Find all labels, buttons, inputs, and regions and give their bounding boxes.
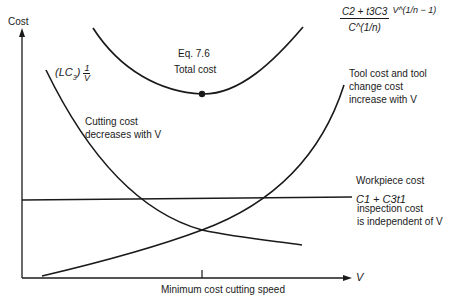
y-axis-label: Cost xyxy=(8,16,29,28)
total-cost-formula: C2 + t3C3 C^(1/n) V^(1/n − 1) xyxy=(340,6,436,34)
total-cost-curve xyxy=(93,27,303,94)
tool-cost-label-line3: increase with V xyxy=(349,94,417,106)
total-cost-formula-denominator: C^(1/n) xyxy=(340,19,389,34)
cutting-cost-curve xyxy=(46,70,302,245)
equation-reference: Eq. 7.6 xyxy=(178,48,210,60)
x-axis-arrow-icon xyxy=(343,275,352,281)
workpiece-cost-label-line1: Workpiece cost xyxy=(356,175,424,187)
tool-cost-label-line2: change cost xyxy=(349,81,403,93)
cutting-cost-formula: (LC3) 1 V xyxy=(55,64,90,84)
minimum-cost-point xyxy=(199,91,205,97)
cutting-cost-label-line1: Cutting cost xyxy=(85,116,138,128)
cutting-cost-formula-prefix: (LC xyxy=(55,66,73,78)
tool-cost-curve xyxy=(42,85,344,276)
workpiece-cost-line xyxy=(22,197,352,200)
total-cost-formula-power: V^(1/n − 1) xyxy=(392,4,436,16)
workpiece-cost-label-line3: inspection cost xyxy=(357,203,423,215)
fraction-denominator: V xyxy=(83,74,90,83)
cutting-cost-formula-suffix: ) xyxy=(77,66,81,78)
min-cost-speed-label: Minimum cost cutting speed xyxy=(161,284,285,296)
tool-cost-label-line1: Tool cost and tool xyxy=(349,68,427,80)
cutting-cost-label-line2: decreases with V xyxy=(85,129,161,141)
y-axis-arrow-icon xyxy=(19,28,25,37)
x-axis-label: V xyxy=(356,271,363,283)
cutting-cost-fraction: 1 V xyxy=(83,64,90,83)
cost-diagram-plot xyxy=(0,0,453,304)
total-cost-formula-numerator: C2 + t3C3 xyxy=(340,6,389,19)
workpiece-cost-label-line4: is independent of V xyxy=(357,216,443,228)
total-cost-label: Total cost xyxy=(174,64,216,76)
